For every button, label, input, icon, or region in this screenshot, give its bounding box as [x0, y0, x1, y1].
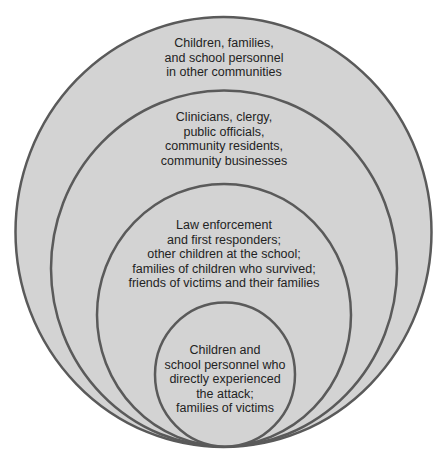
- ring-outer-label: Children, families, and school personnel…: [165, 36, 284, 80]
- ring-inner-label: Children and school personnel who direct…: [165, 343, 286, 416]
- ring-community-label: Clinicians, clergy, public officials, co…: [161, 110, 287, 168]
- ring-responders-label: Law enforcement and first responders; ot…: [128, 218, 319, 291]
